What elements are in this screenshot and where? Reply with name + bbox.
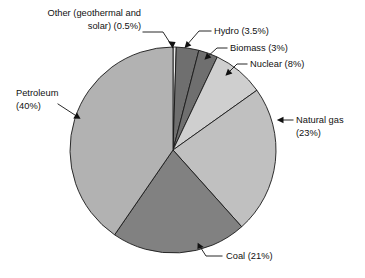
energy-sources-pie-chart: Other (geothermal and solar) (0.5%) Hydr…	[0, 0, 365, 278]
leader-line-other	[143, 32, 172, 46]
label-natural-gas-line1: Natural gas	[296, 115, 344, 125]
arrow-head-hydro	[185, 41, 192, 48]
label-nuclear: Nuclear (8%)	[250, 59, 304, 69]
label-petroleum-line1: Petroleum	[16, 88, 59, 98]
arrow-head-natural-gas	[277, 117, 284, 124]
leader-line-petroleum	[58, 104, 78, 117]
label-biomass: Biomass (3%)	[230, 43, 288, 53]
label-other-line1: Other (geothermal and	[47, 8, 141, 18]
pie-chart-figure: Other (geothermal and solar) (0.5%) Hydr…	[0, 0, 365, 278]
label-petroleum-line2: (40%)	[16, 101, 41, 111]
label-other-line2: solar) (0.5%)	[88, 21, 141, 31]
pie-slices	[70, 47, 276, 253]
label-hydro: Hydro (3.5%)	[214, 26, 269, 36]
label-coal: Coal (21%)	[226, 251, 273, 261]
leader-line-hydro	[186, 31, 211, 46]
label-natural-gas-line2: (23%)	[296, 128, 321, 138]
